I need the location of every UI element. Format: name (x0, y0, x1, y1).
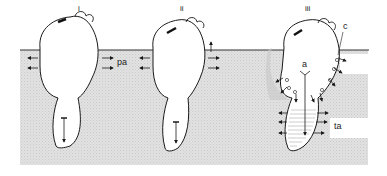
panel-label-ii: ii (180, 5, 184, 13)
label-a: a (302, 60, 307, 69)
panel-label-iii: iii (305, 5, 310, 13)
diagram-canvas (0, 0, 387, 176)
label-ta: ta (334, 122, 342, 131)
label-c: c (343, 22, 348, 31)
label-pa: pa (117, 58, 127, 67)
panel-label-i: i (78, 5, 80, 13)
